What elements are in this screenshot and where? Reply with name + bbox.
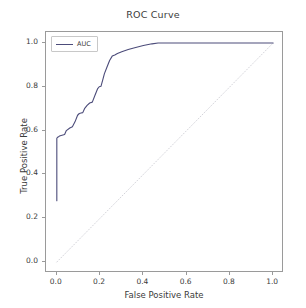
y-tick-mark <box>42 42 45 43</box>
x-tick-mark <box>56 272 57 275</box>
x-tick-mark <box>142 272 143 275</box>
x-tick-label: 0.2 <box>84 277 114 286</box>
roc-curve-line <box>57 43 273 201</box>
x-tick-label: 0.6 <box>171 277 201 286</box>
y-tick-mark <box>42 173 45 174</box>
x-tick-label: 0.8 <box>214 277 244 286</box>
x-tick-mark <box>229 272 230 275</box>
chance-diagonal-line <box>57 43 273 262</box>
y-tick-mark <box>42 217 45 218</box>
y-tick-mark <box>42 261 45 262</box>
plot-canvas <box>46 32 284 273</box>
x-tick-mark <box>186 272 187 275</box>
legend-item-label: AUC <box>77 40 91 48</box>
y-axis-label: True Positive Rate <box>19 86 29 226</box>
y-tick-mark <box>42 130 45 131</box>
x-tick-label: 0.4 <box>127 277 157 286</box>
plot-area <box>45 31 283 272</box>
x-axis-label: False Positive Rate <box>45 290 283 300</box>
x-tick-mark <box>99 272 100 275</box>
page-title: ROC Curve <box>0 9 306 20</box>
x-tick-label: 0.0 <box>41 277 71 286</box>
legend-line-swatch <box>56 44 73 45</box>
x-tick-mark <box>272 272 273 275</box>
y-tick-label: 0.0 <box>8 256 38 265</box>
roc-curve-figure: ROC Curve 0.00.20.40.60.81.0 0.00.20.40.… <box>0 0 306 308</box>
legend: AUC <box>51 36 98 52</box>
y-tick-label: 1.0 <box>8 37 38 46</box>
x-tick-label: 1.0 <box>257 277 287 286</box>
y-tick-mark <box>42 86 45 87</box>
